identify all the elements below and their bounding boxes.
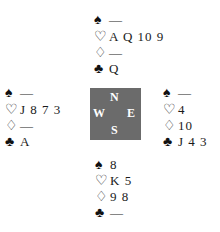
compass-north-label: N (110, 90, 119, 105)
heart-icon: ♡ (5, 102, 20, 118)
east-clubs-row: ♣J 4 3 (163, 134, 208, 150)
club-icon: ♣ (95, 205, 110, 221)
compass-table: N E S W (90, 88, 141, 140)
north-spades-cards: — (109, 12, 123, 27)
east-spades-row: ♠— (163, 85, 192, 101)
heart-icon: ♡ (95, 173, 110, 189)
heart-icon: ♡ (94, 29, 109, 45)
east-spades-cards: — (178, 85, 192, 100)
compass-east-label: E (127, 106, 135, 121)
east-hearts-cards: 4 (178, 102, 186, 117)
south-diamonds-cards: 9 8 (110, 189, 129, 204)
club-icon: ♣ (5, 134, 20, 150)
west-spades-cards: — (20, 85, 34, 100)
east-hearts-row: ♡4 (163, 102, 186, 118)
north-hearts-row: ♡A Q 10 9 (94, 29, 164, 45)
south-spades-cards: 8 (110, 157, 118, 172)
diamond-icon: ♢ (95, 189, 110, 205)
club-icon: ♣ (163, 134, 178, 150)
north-clubs-row: ♣Q (94, 61, 119, 77)
south-spades-row: ♠8 (95, 157, 118, 173)
east-diamonds-row: ♢10 (163, 118, 193, 134)
club-icon: ♣ (94, 61, 109, 77)
spade-icon: ♠ (94, 12, 109, 28)
diamond-icon: ♢ (163, 118, 178, 134)
north-diamonds-row: ♢— (94, 45, 123, 61)
west-clubs-cards: A (20, 134, 30, 149)
compass-south-label: S (111, 123, 118, 138)
spade-icon: ♠ (163, 85, 178, 101)
south-diamonds-row: ♢9 8 (95, 189, 129, 205)
east-clubs-cards: J 4 3 (178, 134, 208, 149)
west-diamonds-row: ♢— (5, 118, 34, 134)
south-hearts-row: ♡K 5 (95, 173, 132, 189)
north-diamonds-cards: — (109, 45, 123, 60)
diamond-icon: ♢ (94, 45, 109, 61)
west-clubs-row: ♣A (5, 134, 30, 150)
east-diamonds-cards: 10 (178, 118, 193, 133)
west-hearts-cards: J 8 7 3 (20, 102, 61, 117)
south-clubs-row: ♣— (95, 205, 124, 221)
south-clubs-cards: — (110, 205, 124, 220)
west-spades-row: ♠— (5, 85, 34, 101)
diamond-icon: ♢ (5, 118, 20, 134)
spade-icon: ♠ (95, 157, 110, 173)
heart-icon: ♡ (163, 102, 178, 118)
spade-icon: ♠ (5, 85, 20, 101)
compass-west-label: W (93, 106, 105, 121)
north-clubs-cards: Q (109, 61, 119, 76)
west-hearts-row: ♡J 8 7 3 (5, 102, 61, 118)
south-hearts-cards: K 5 (110, 173, 132, 188)
north-spades-row: ♠— (94, 12, 123, 28)
north-hearts-cards: A Q 10 9 (109, 29, 164, 44)
west-diamonds-cards: — (20, 118, 34, 133)
